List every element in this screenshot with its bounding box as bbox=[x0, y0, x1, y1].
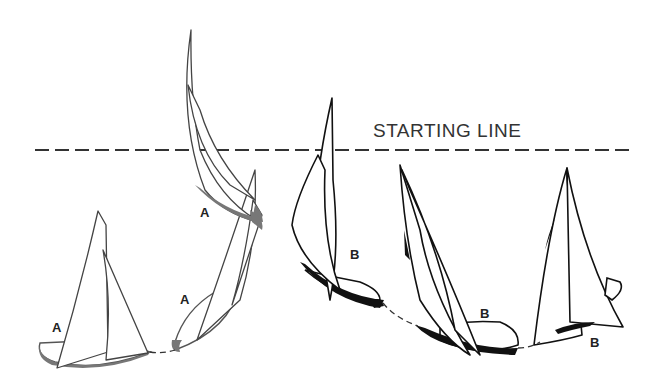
starting-line-label: STARTING LINE bbox=[373, 120, 521, 142]
boat-label-a2: A bbox=[180, 292, 189, 307]
boat-b1 bbox=[292, 98, 384, 308]
boat-b3 bbox=[534, 168, 623, 345]
sailing-start-diagram bbox=[0, 0, 658, 385]
track-b1-b2 bbox=[383, 303, 418, 326]
track-a bbox=[150, 350, 175, 353]
boat-label-a3: A bbox=[200, 205, 209, 220]
boat-label-a1: A bbox=[52, 320, 61, 335]
boat-label-b2: B bbox=[480, 306, 489, 321]
boat-label-b3: B bbox=[590, 335, 599, 350]
boat-label-b1: B bbox=[350, 247, 359, 262]
boat-a1 bbox=[39, 211, 150, 368]
